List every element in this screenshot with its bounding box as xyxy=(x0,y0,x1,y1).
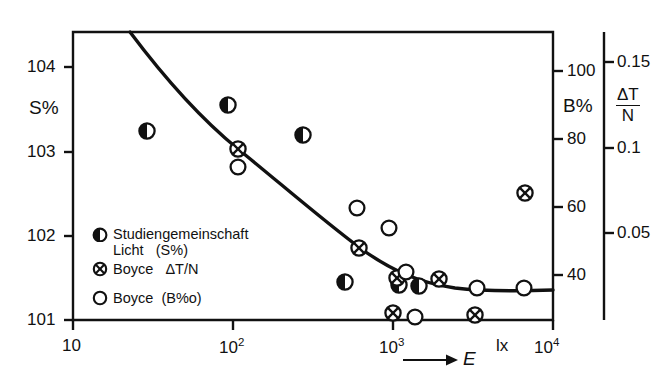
third-axis xyxy=(604,32,614,320)
half-filled-circle-icon xyxy=(92,226,108,242)
left-tick-label-104: 104 xyxy=(27,58,55,75)
x-tick-label-10000: 104 xyxy=(534,337,559,356)
right-tick-label-40: 40 xyxy=(567,266,586,283)
left-tick-label-102: 102 xyxy=(27,227,55,244)
third-tick-label-005: 0.05 xyxy=(617,224,650,241)
x-axis-unit-label: lx xyxy=(496,337,508,354)
legend-label-line1: Boyce xyxy=(113,261,153,277)
data-point-open-circle xyxy=(517,281,532,296)
third-axis-title-numerator: ΔT xyxy=(616,86,640,106)
left-axis-title: S% xyxy=(29,98,59,117)
legend-entry-boyce-b-percent: Boyce (B%o) xyxy=(92,290,202,306)
legend-label-line1: Studiengemeinschaft xyxy=(113,226,248,242)
data-point-crossed-circle xyxy=(431,271,446,286)
crossed-circle-icon xyxy=(92,261,108,277)
data-point-half-circle xyxy=(411,278,426,293)
x-axis-ticks xyxy=(73,320,553,330)
third-tick-label-015: 0.15 xyxy=(617,53,650,70)
data-point-open-circle xyxy=(470,281,485,296)
data-point-crossed-circle xyxy=(351,240,366,255)
right-tick-label-60: 60 xyxy=(567,198,586,215)
right-tick-label-80: 80 xyxy=(567,130,586,147)
data-point-open-circle xyxy=(231,160,246,175)
right-axis-title: B% xyxy=(563,96,593,115)
open-circle-icon xyxy=(92,290,108,306)
x-tick-label-100: 102 xyxy=(219,337,244,356)
plot-canvas xyxy=(0,0,663,387)
data-point-half-circle xyxy=(220,97,235,112)
left-tick-label-103: 103 xyxy=(27,143,55,160)
chart-figure: 104 103 102 101 S% 10 102 103 104 lx E 1… xyxy=(0,0,663,387)
legend-label-line2: Licht xyxy=(113,242,144,258)
right-tick-label-100: 100 xyxy=(567,62,595,79)
data-point-half-circle xyxy=(337,274,352,289)
left-tick-label-101: 101 xyxy=(27,311,55,328)
data-point-open-circle xyxy=(399,265,414,280)
left-axis-ticks xyxy=(64,67,73,320)
x-tick-label-10: 10 xyxy=(62,337,81,354)
legend-label-line1: Boyce xyxy=(113,290,153,306)
legend-label-line2-suffix: (S%) xyxy=(156,242,188,258)
third-axis-title: ΔT N xyxy=(616,86,640,125)
legend-label-line1-suffix: (B%o) xyxy=(161,290,201,306)
right-axis-ticks xyxy=(553,71,563,275)
data-point-half-circle xyxy=(139,123,154,138)
data-point-crossed-circle xyxy=(230,141,245,156)
data-point-half-circle xyxy=(295,127,310,142)
data-point-crossed-circle xyxy=(517,185,532,200)
third-tick-label-01: 0.1 xyxy=(617,139,641,156)
legend-entry-boyce-delta-t-n: Boyce ΔT/N xyxy=(92,261,198,277)
legend-label-line1-suffix: ΔT/N xyxy=(165,261,198,277)
data-point-open-circle xyxy=(382,221,397,236)
x-axis-variable-label: E xyxy=(463,349,476,368)
third-axis-title-denominator: N xyxy=(616,106,640,125)
data-point-crossed-circle xyxy=(385,305,400,320)
data-point-open-circle xyxy=(350,201,365,216)
x-tick-label-1000: 103 xyxy=(379,337,404,356)
x-axis-arrow-icon xyxy=(403,355,458,366)
data-point-open-circle xyxy=(408,310,423,325)
data-point-crossed-circle xyxy=(467,307,482,322)
series-boyce-b-percent xyxy=(231,160,532,325)
legend-entry-studiengemeinschaft: Studiengemeinschaft Licht (S%) xyxy=(92,226,248,258)
